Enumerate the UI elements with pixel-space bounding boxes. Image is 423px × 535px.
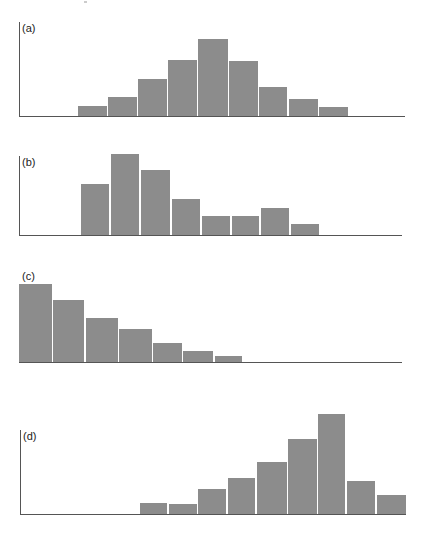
histogram-bar [318,414,345,514]
histogram-bar [215,356,242,362]
histogram-bar [228,478,255,514]
histogram-bar [53,300,84,362]
histogram-bar [119,329,152,362]
x-axis-line [19,116,405,117]
print-smudge [84,1,87,3]
x-axis-line [19,362,402,363]
histogram-bar [259,87,287,116]
panel-label: (a) [22,23,35,34]
histogram-bar [202,216,230,235]
histogram-bar [198,39,228,116]
histogram-bar [81,184,109,235]
histogram-bar [141,170,170,235]
histogram-bar [257,462,287,514]
histogram-bar [111,154,139,235]
histogram-bar [261,208,289,235]
histogram-bar [289,99,318,116]
histogram-bar [288,439,317,514]
histogram-bar [86,318,118,362]
histogram-bar [198,489,226,514]
histogram-bar [291,224,319,235]
histogram-bar [183,351,213,362]
histogram-bar [319,107,348,116]
y-axis-line [19,156,20,236]
x-axis-line [19,235,402,236]
histogram-bar [168,60,197,116]
histogram-bar [347,481,375,514]
panel-label: (d) [23,431,36,442]
histogram-bar [172,199,200,235]
panel-label: (c) [22,271,35,282]
histogram-bar [19,284,52,362]
x-axis-line [20,514,406,515]
histogram-bar [229,61,258,116]
histogram-bar [377,495,406,514]
histogram-bar [138,79,167,116]
histogram-bar [153,343,182,362]
y-axis-line [19,22,20,117]
histogram-bar [232,216,259,235]
histogram-bar [140,503,167,514]
panel-label: (b) [22,157,35,168]
histogram-bar [108,97,137,116]
y-axis-line [20,430,21,515]
histogram-bar [78,106,107,116]
histogram-bar [169,504,197,514]
